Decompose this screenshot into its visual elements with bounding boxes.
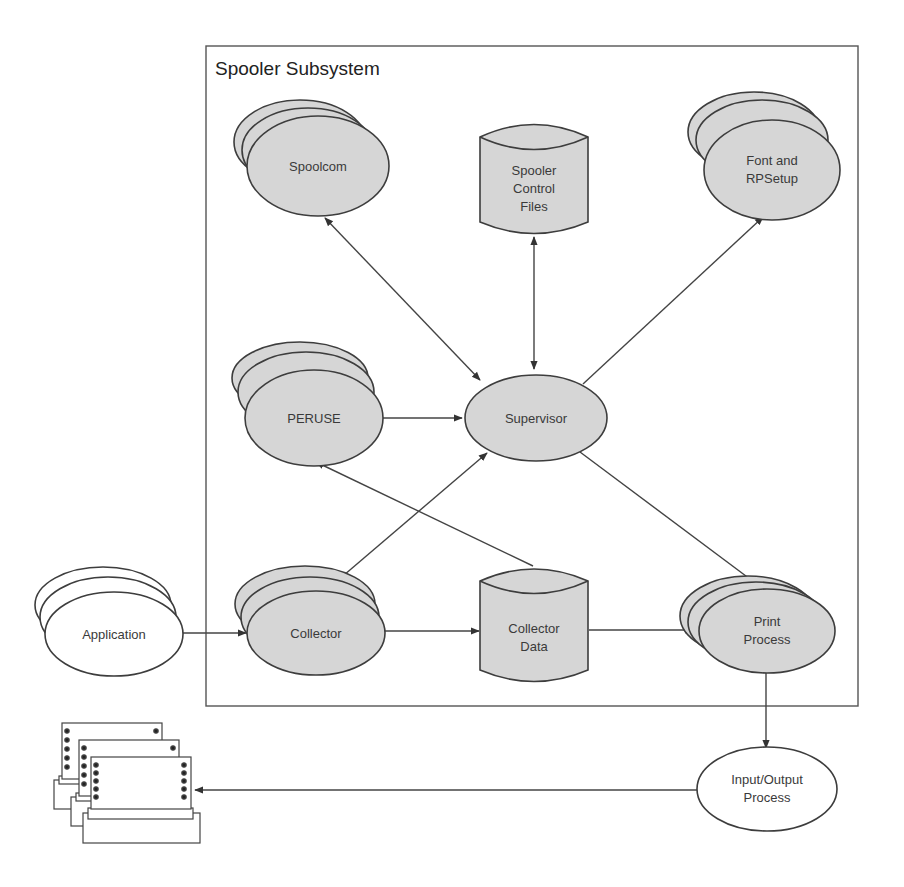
node-peruse: PERUSE [232, 342, 383, 466]
print-process-label-2: Process [744, 632, 791, 647]
node-application: Application [35, 567, 183, 676]
control-files-label-3: Files [520, 199, 548, 214]
node-print-process: Print Process [680, 576, 835, 673]
node-spoolcom: Spoolcom [234, 100, 389, 216]
printer-icon-stack [54, 723, 200, 843]
edge-supervisor-print [580, 452, 762, 588]
peruse-label: PERUSE [287, 411, 341, 426]
collector-label: Collector [290, 626, 342, 641]
control-files-label-2: Control [513, 181, 555, 196]
edges [182, 217, 766, 790]
edge-collectordata-peruse [316, 462, 533, 566]
collector-data-label-2: Data [520, 639, 548, 654]
io-process-label-2: Process [744, 790, 791, 805]
node-supervisor: Supervisor [465, 375, 607, 461]
node-io-process: Input/Output Process [697, 747, 837, 831]
printer-icon [83, 757, 200, 843]
font-rpsetup-label-1: Font and [746, 153, 797, 168]
subsystem-title: Spooler Subsystem [215, 58, 380, 79]
application-label: Application [82, 627, 146, 642]
node-collector-data: Collector Data [480, 569, 588, 682]
edge-supervisor-font [583, 217, 763, 384]
io-process-label-1: Input/Output [731, 772, 803, 787]
node-spooler-control-files: Spooler Control Files [480, 125, 588, 234]
collector-data-label-1: Collector [508, 621, 560, 636]
print-process-label-1: Print [754, 614, 781, 629]
font-rpsetup-label-2: RPSetup [746, 171, 798, 186]
supervisor-label: Supervisor [505, 411, 568, 426]
spooler-diagram: Spooler Subsystem Spoolcom [0, 0, 904, 887]
node-collector: Collector [235, 566, 385, 675]
node-font-rpsetup: Font and RPSetup [688, 92, 840, 220]
control-files-label-1: Spooler [512, 163, 557, 178]
spoolcom-label: Spoolcom [289, 159, 347, 174]
edge-collector-supervisor [330, 453, 487, 587]
